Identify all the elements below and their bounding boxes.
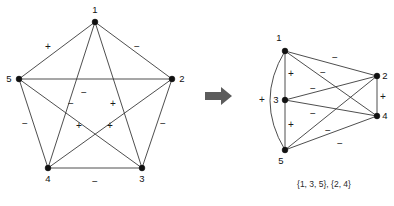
balanced-signed-graph: 13524 ++++−−−−−− {1, 3, 5}, {2, 4} <box>259 32 388 189</box>
graph-edge <box>285 51 377 116</box>
graph-node <box>169 76 175 82</box>
edge-sign-label: − <box>325 125 331 136</box>
graph-node <box>282 97 288 103</box>
graph-node-label: 3 <box>139 173 144 184</box>
graph-node-label: 5 <box>278 155 283 166</box>
graph-edge <box>19 22 95 79</box>
graph-node-label: 4 <box>45 173 50 184</box>
edge-sign-label: − <box>92 176 98 187</box>
left-graph-edges <box>19 22 172 168</box>
graph-node-label: 2 <box>382 70 387 81</box>
edge-sign-label: + <box>288 119 294 130</box>
partition-caption: {1, 3, 5}, {2, 4} <box>297 179 351 189</box>
signed-graph-figure: 12345 +−−−+++−−− 13524 ++++−−−−−− {1, 3,… <box>0 0 394 206</box>
edge-sign-label: + <box>107 120 113 131</box>
edge-sign-label: − <box>22 118 28 129</box>
graph-edge <box>142 79 172 168</box>
graph-edge <box>285 100 377 116</box>
edge-sign-label: − <box>134 41 140 52</box>
graph-node <box>374 113 380 119</box>
graph-node-label: 3 <box>273 94 278 105</box>
edge-sign-label: − <box>160 118 166 129</box>
left-graph-nodes: 12345 <box>6 4 184 184</box>
edge-sign-label: + <box>76 120 82 131</box>
right-arrow-glyph <box>205 87 232 105</box>
graph-node <box>92 19 98 25</box>
graph-edge <box>285 76 377 150</box>
edge-sign-label: − <box>81 87 87 98</box>
edge-sign-label: − <box>337 138 343 149</box>
graph-edge <box>285 116 377 150</box>
figure-canvas: 12345 +−−−+++−−− 13524 ++++−−−−−− {1, 3,… <box>0 0 394 206</box>
graph-edge <box>48 22 95 168</box>
edge-sign-label: − <box>320 67 326 78</box>
graph-node <box>139 165 145 171</box>
graph-node-label: 2 <box>179 73 184 84</box>
left-graph-sign-labels: +−−−+++−−− <box>22 41 166 187</box>
edge-sign-label: + <box>288 68 294 79</box>
pentagon-signed-graph: 12345 +−−−+++−−− <box>6 4 184 187</box>
edge-sign-label: − <box>332 52 338 63</box>
edge-sign-label: + <box>45 41 51 52</box>
edge-sign-label: − <box>310 83 316 94</box>
graph-node <box>16 76 22 82</box>
graph-edge <box>285 51 377 76</box>
graph-node-label: 4 <box>382 110 387 121</box>
graph-node <box>282 147 288 153</box>
graph-node <box>282 48 288 54</box>
graph-node-label: 1 <box>276 32 281 43</box>
graph-node-label: 1 <box>92 4 97 15</box>
edge-sign-label: + <box>110 98 116 109</box>
right-arrow-icon <box>205 87 232 105</box>
graph-node <box>374 73 380 79</box>
graph-node-label: 5 <box>6 73 11 84</box>
edge-sign-label: − <box>68 98 74 109</box>
graph-edge <box>285 76 377 100</box>
graph-node <box>45 165 51 171</box>
edge-sign-label: − <box>310 108 316 119</box>
edge-sign-label: + <box>380 91 386 102</box>
edge-sign-label: + <box>259 94 265 105</box>
